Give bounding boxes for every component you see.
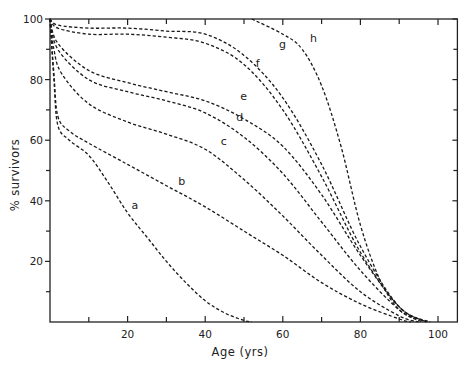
- y-axis-label: % survivors: [8, 139, 22, 212]
- curve-e: [50, 19, 426, 322]
- curve-label-c: c: [221, 135, 227, 148]
- curve-d: [50, 19, 423, 322]
- curve-label-h: h: [310, 32, 317, 45]
- x-tick-label: 60: [276, 328, 289, 340]
- curve-b: [50, 19, 411, 322]
- x-tick-label: 40: [199, 328, 212, 340]
- plot-border: [50, 19, 457, 322]
- curve-label-a: a: [132, 199, 139, 212]
- curve-label-f: f: [256, 57, 261, 70]
- survival-curves: [50, 19, 430, 322]
- plot-frame: [50, 19, 457, 322]
- y-tick-label: 40: [30, 195, 43, 207]
- curve-label-e: e: [240, 90, 247, 103]
- curve-g: [50, 19, 430, 322]
- curve-h: [252, 19, 430, 322]
- x-tick-label: 100: [428, 328, 448, 340]
- curve-label-d: d: [236, 111, 243, 124]
- y-tick-label: 20: [30, 255, 43, 267]
- x-axis-label: Age (yrs): [212, 345, 269, 359]
- curve-f: [50, 19, 426, 322]
- curve-c: [50, 19, 419, 322]
- y-tick-label: 80: [30, 74, 43, 86]
- y-tick-label: 60: [30, 134, 43, 146]
- x-tick-label: 20: [121, 328, 134, 340]
- y-tick-label: 100: [23, 13, 43, 25]
- x-tick-label: 80: [354, 328, 367, 340]
- curve-label-b: b: [178, 175, 185, 188]
- curve-label-g: g: [279, 38, 286, 51]
- curve-labels: abcdefgh: [132, 32, 317, 212]
- survivorship-chart: 2040608010020406080100 abcdefgh Age (yrs…: [0, 0, 471, 366]
